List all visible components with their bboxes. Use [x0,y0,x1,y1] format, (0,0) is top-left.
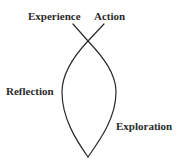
label-experience: Experience [28,11,81,22]
label-action: Action [94,11,125,22]
experiential-learning-diagram: Experience Action Reflection Exploration [0,0,180,167]
label-reflection: Reflection [6,86,54,97]
strand-action-to-reflection [62,24,104,157]
label-exploration: Exploration [116,121,172,132]
strand-experience-to-exploration [73,24,116,157]
loop-shape [0,0,180,167]
